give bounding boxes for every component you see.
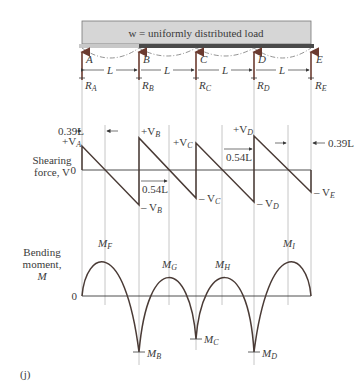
- shear-diagram: Shearing force, V 0 0.39L +VA +VB +VC +V…: [32, 123, 354, 215]
- svg-text:MH: MH: [214, 258, 231, 272]
- guide-lines: [82, 80, 311, 365]
- svg-text:0.54L: 0.54L: [226, 151, 252, 163]
- svg-text:L: L: [106, 64, 113, 76]
- svg-text:C: C: [200, 53, 208, 65]
- moment-diagram: Bending moment, M 0 MF MG MH MI MB MC MD: [23, 237, 311, 361]
- svg-text:M: M: [36, 270, 47, 282]
- svg-text:L: L: [163, 64, 170, 76]
- svg-text:– VB: – VB: [140, 201, 162, 215]
- svg-text:RE: RE: [314, 79, 327, 93]
- svg-text:MD: MD: [261, 347, 277, 361]
- svg-text:force, V: force, V: [34, 166, 70, 178]
- moment-curve: [82, 262, 311, 352]
- svg-text:MC: MC: [203, 333, 219, 347]
- svg-text:RA: RA: [84, 79, 97, 93]
- svg-text:+VC: +VC: [173, 136, 193, 150]
- svg-text:A: A: [85, 53, 93, 65]
- svg-text:– VE: – VE: [313, 186, 335, 200]
- reactions: [82, 52, 311, 80]
- continuous-beam-diagram: w = uniformly distributed load A B C D E…: [0, 0, 364, 390]
- svg-text:Bending: Bending: [23, 246, 61, 258]
- svg-text:– VD: – VD: [256, 197, 279, 211]
- shear-curve: [82, 136, 311, 205]
- svg-text:MI: MI: [282, 237, 295, 251]
- svg-text:L: L: [278, 64, 285, 76]
- svg-text:moment,: moment,: [23, 258, 62, 270]
- svg-text:RC: RC: [198, 79, 212, 93]
- svg-text:+VB: +VB: [141, 125, 160, 139]
- svg-text:RB: RB: [141, 79, 154, 93]
- svg-text:+VA: +VA: [62, 135, 81, 149]
- svg-text:RD: RD: [256, 79, 270, 93]
- svg-text:0.54L: 0.54L: [142, 183, 168, 195]
- svg-text:MG: MG: [161, 258, 177, 272]
- svg-text:MF: MF: [97, 237, 112, 251]
- svg-text:+VD: +VD: [233, 123, 253, 137]
- support-labels: A B C D E: [85, 53, 323, 65]
- svg-text:0.39L: 0.39L: [328, 137, 354, 149]
- svg-text:B: B: [143, 53, 150, 65]
- panel-label: (j): [20, 368, 31, 381]
- svg-text:MB: MB: [146, 347, 161, 361]
- svg-text:D: D: [257, 53, 266, 65]
- svg-text:E: E: [315, 53, 323, 65]
- svg-text:L: L: [221, 64, 228, 76]
- svg-text:0: 0: [71, 164, 77, 176]
- svg-text:Shearing: Shearing: [32, 154, 72, 166]
- svg-text:– VC: – VC: [198, 192, 221, 206]
- load-label: w = uniformly distributed load: [128, 27, 264, 39]
- reaction-labels: RA RB RC RD RE: [84, 79, 327, 93]
- svg-text:0: 0: [72, 290, 78, 302]
